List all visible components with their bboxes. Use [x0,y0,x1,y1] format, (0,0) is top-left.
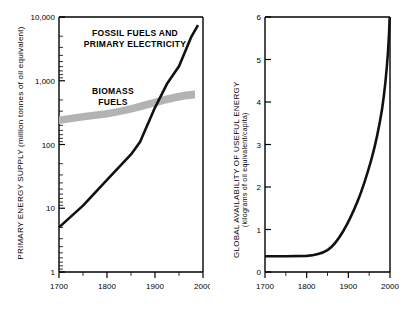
series-global-availability-line [265,17,390,256]
figure-root: PRIMARY ENERGY SUPPLY (million tonnes of… [0,0,411,313]
plot-area-right: 0 1 2 3 4 5 6 1700 1800 1900 2000 [210,0,411,313]
x-tick-label-1800-left: 1800 [98,282,116,291]
x-tick-label-1700-left: 1700 [50,282,68,291]
y-tick-label-1000-left: 1,000 [35,77,56,86]
x-tick-label-1900-right: 1900 [339,282,357,291]
series-fossil-fuels-line [59,25,198,227]
annotation-fossil-line1: FOSSIL FUELS AND [92,28,178,38]
y-tick-label-10-left: 10 [46,204,55,213]
y-tick-label-3-right: 3 [257,141,262,150]
x-ticks-left [59,272,203,278]
y-tick-label-1-right: 1 [257,226,262,235]
x-ticks-right [265,272,390,278]
y-tick-label-10000-left: 10,000 [31,13,56,22]
x-tick-label-2000-left: 2000 [194,282,210,291]
chart-panel-primary-energy-supply: PRIMARY ENERGY SUPPLY (million tonnes of… [0,0,210,313]
annotation-biomass-line2: FUELS [98,97,127,107]
y-tick-label-1-left: 1 [51,268,56,277]
x-tick-label-1900-left: 1900 [146,282,164,291]
y-tick-label-0-right: 0 [257,268,262,277]
y-tick-label-2-right: 2 [257,183,262,192]
y-tick-label-100-left: 100 [42,141,56,150]
plot-area-left: 10,000 1,000 100 10 1 1700 1800 1900 200… [0,0,210,313]
x-tick-label-1800-right: 1800 [298,282,316,291]
y-ticks-right [265,17,271,272]
y-tick-label-6-right: 6 [257,13,262,22]
annotation-biomass-line1: BIOMASS [92,86,134,96]
x-tick-label-2000-right: 2000 [381,282,399,291]
annotation-fossil-line2: PRIMARY ELECTRICITY [84,39,187,49]
chart-panel-global-availability: GLOBAL AVAILABILITY OF USEFUL ENERGY (ki… [210,0,411,313]
x-tick-label-1700-right: 1700 [256,282,274,291]
y-tick-label-4-right: 4 [257,98,262,107]
y-tick-label-5-right: 5 [257,56,262,65]
